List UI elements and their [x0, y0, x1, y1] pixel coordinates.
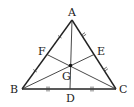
- label-g: G: [62, 70, 71, 83]
- triangle-diagram: A B C D E F G: [0, 0, 134, 107]
- label-e: E: [97, 45, 105, 58]
- label-b: B: [10, 83, 18, 96]
- label-a: A: [67, 6, 77, 19]
- label-c: C: [119, 83, 127, 96]
- label-d: D: [66, 92, 75, 105]
- label-f: F: [38, 45, 46, 58]
- centroid-point: [69, 64, 73, 68]
